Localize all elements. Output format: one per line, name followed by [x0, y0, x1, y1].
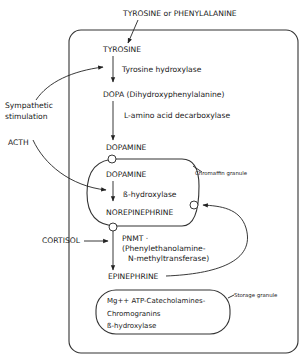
storage-granule-label: Storage granule	[234, 292, 278, 299]
epinephrine-uptake-arrow	[166, 205, 248, 276]
sympathetic-label-line1: Sympathetic	[5, 101, 53, 110]
catecholamine-synthesis-diagram: TYROSINE or PHENYLALANINE TYROSINE Tyros…	[0, 0, 301, 364]
cortisol-label: CORTISOL	[42, 236, 81, 245]
sympathetic-label-line2: stimulation	[5, 112, 48, 121]
source-label: TYROSINE or PHENYLALANINE	[122, 9, 237, 18]
transporter-icon	[108, 155, 116, 163]
tyrosine-label: TYROSINE	[102, 45, 141, 54]
acth-label: ACTH	[8, 138, 29, 147]
decarboxylase-label: L-amino acid decarboxylase	[124, 111, 230, 120]
tyrosine-hydroxylase-label: Tyrosine hydroxylase	[121, 65, 202, 74]
pnmt-fullname-line2: N-methyltransferase)	[128, 254, 209, 263]
norepinephrine-label: NOREPINEPHRINE	[106, 208, 174, 217]
epinephrine-label: EPINEPHRINE	[108, 272, 159, 281]
dopamine-label: DOPAMINE	[106, 143, 147, 152]
pnmt-fullname-line1: (Phenylethanolamine-	[122, 244, 206, 253]
pnmt-label: PNMT ·	[122, 234, 148, 243]
storage-line1: Mg++ ATP-Catecholamines-	[107, 297, 206, 305]
storage-line2: Chromogranins	[107, 310, 161, 318]
storage-line3: ß-hydroxylase	[107, 322, 156, 330]
transporter-icon	[190, 201, 198, 209]
beta-hydroxylase-label: ß-hydroxylase	[123, 190, 177, 199]
source-arrow	[128, 20, 138, 43]
dopa-label: DOPA (Dihydroxyphenylalanine)	[103, 90, 224, 99]
transporter-icon	[109, 223, 117, 231]
granule-dopamine-label: DOPAMINE	[106, 170, 147, 179]
chromaffin-granule-label: Chromaffin granule	[195, 170, 248, 177]
